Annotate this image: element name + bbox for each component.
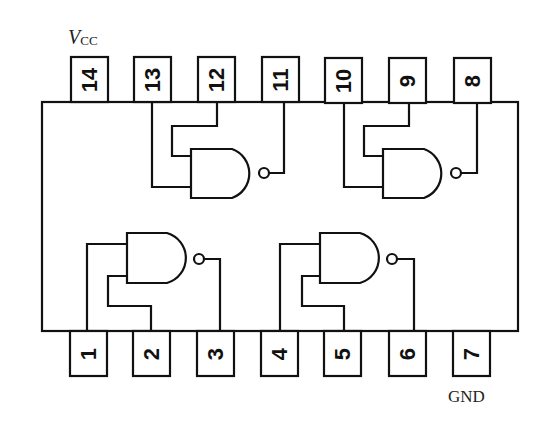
- pin-5: 5: [324, 331, 361, 376]
- pin-3: 3: [197, 331, 234, 376]
- pin-7: 7: [453, 331, 490, 376]
- svg-text:14: 14: [77, 67, 102, 92]
- pin-10: 10: [325, 58, 362, 103]
- nand-ic-diagram: VCC 14 13 12 11 10 9 8: [0, 0, 548, 425]
- pin-1: 1: [70, 331, 107, 376]
- pin-13: 13: [134, 57, 171, 102]
- pin-9: 9: [389, 58, 426, 103]
- svg-text:12: 12: [204, 68, 229, 92]
- svg-text:10: 10: [331, 69, 356, 93]
- svg-text:13: 13: [140, 68, 165, 92]
- vcc-label: VCC: [68, 26, 98, 48]
- top-pins: 14 13 12 11 10 9 8: [71, 57, 491, 103]
- svg-text:9: 9: [395, 75, 420, 87]
- gnd-label: GND: [448, 387, 485, 406]
- svg-text:8: 8: [460, 75, 485, 87]
- pin-2: 2: [133, 331, 170, 376]
- pin-6: 6: [389, 331, 426, 376]
- svg-text:7: 7: [459, 348, 484, 360]
- svg-text:6: 6: [395, 348, 420, 360]
- pin-4: 4: [261, 331, 298, 376]
- pin-14: 14: [71, 57, 108, 102]
- svg-text:2: 2: [139, 348, 164, 360]
- svg-text:11: 11: [268, 68, 293, 91]
- svg-text:5: 5: [330, 348, 355, 360]
- svg-text:4: 4: [267, 347, 292, 360]
- pin-8: 8: [454, 58, 491, 103]
- svg-text:3: 3: [203, 348, 228, 360]
- svg-text:1: 1: [76, 348, 101, 360]
- pin-11: 11: [262, 57, 299, 102]
- pin-12: 12: [198, 57, 235, 102]
- bottom-pins: 1 2 3 4 5 6 7: [70, 331, 490, 376]
